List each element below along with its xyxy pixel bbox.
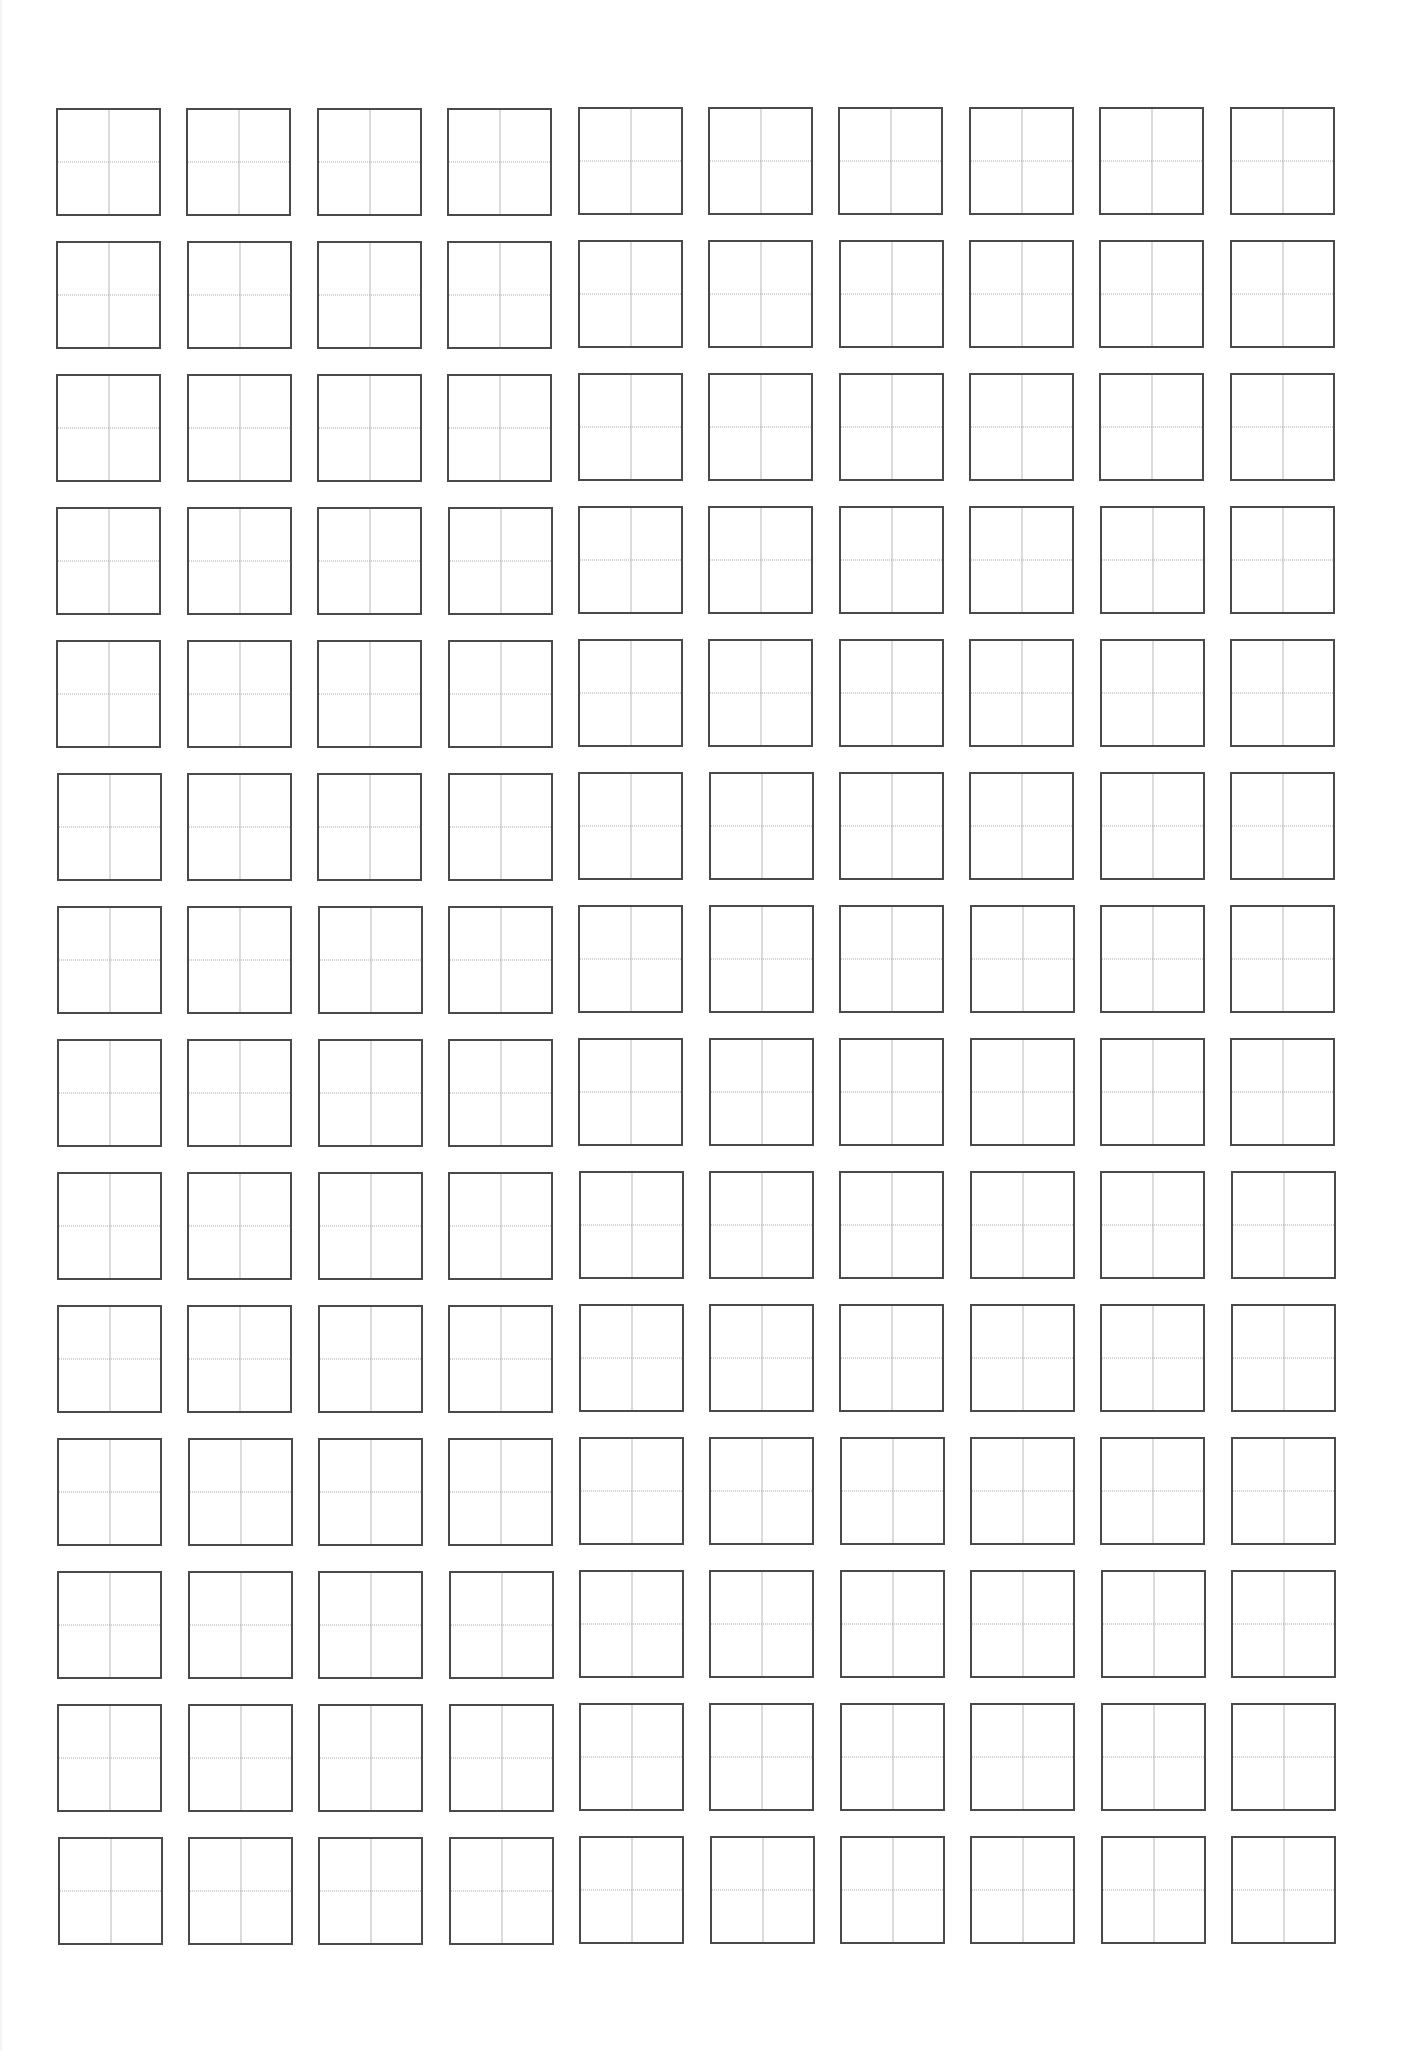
writing-cell xyxy=(318,1305,423,1413)
writing-cell xyxy=(578,107,683,215)
writing-cell xyxy=(317,640,422,748)
writing-cell xyxy=(448,1039,553,1147)
writing-cell xyxy=(839,373,944,481)
horizontal-guide-line xyxy=(971,693,1072,694)
horizontal-guide-line xyxy=(711,1092,812,1093)
writing-cell xyxy=(318,1837,423,1945)
writing-cell xyxy=(57,1305,162,1413)
writing-cell xyxy=(187,241,292,349)
horizontal-guide-line xyxy=(449,162,550,163)
horizontal-guide-line xyxy=(1102,1092,1203,1093)
writing-cell xyxy=(708,506,813,614)
writing-cell xyxy=(578,373,683,481)
horizontal-guide-line xyxy=(189,694,290,695)
writing-cell xyxy=(186,108,291,216)
writing-cell xyxy=(447,108,552,216)
writing-cell xyxy=(969,240,1074,348)
horizontal-guide-line xyxy=(711,1225,812,1226)
horizontal-guide-line xyxy=(580,294,681,295)
writing-cell xyxy=(448,640,553,748)
horizontal-guide-line xyxy=(1232,161,1333,162)
horizontal-guide-line xyxy=(58,295,159,296)
horizontal-guide-line xyxy=(972,1624,1073,1625)
horizontal-guide-line xyxy=(1232,427,1333,428)
writing-cell xyxy=(56,640,161,748)
writing-cell xyxy=(187,640,292,748)
writing-cell xyxy=(578,240,683,348)
horizontal-guide-line xyxy=(450,1226,551,1227)
writing-cell xyxy=(317,773,422,881)
horizontal-guide-line xyxy=(320,1891,421,1892)
writing-cell xyxy=(970,1703,1075,1811)
horizontal-guide-line xyxy=(188,162,289,163)
horizontal-guide-line xyxy=(60,1891,161,1892)
horizontal-guide-line xyxy=(842,1890,943,1891)
horizontal-guide-line xyxy=(580,560,681,561)
writing-cell xyxy=(709,1703,814,1811)
writing-cell xyxy=(1231,1304,1336,1412)
writing-cell xyxy=(56,507,161,615)
horizontal-guide-line xyxy=(1102,826,1203,827)
horizontal-guide-line xyxy=(840,161,941,162)
horizontal-guide-line xyxy=(58,694,159,695)
writing-cell xyxy=(1099,107,1204,215)
writing-cell xyxy=(1100,639,1205,747)
writing-cell xyxy=(579,1836,684,1944)
writing-cell xyxy=(56,108,161,216)
horizontal-guide-line xyxy=(451,1625,552,1626)
horizontal-guide-line xyxy=(581,1890,682,1891)
writing-cell xyxy=(56,374,161,482)
writing-cell xyxy=(1230,506,1335,614)
writing-cell xyxy=(187,507,292,615)
writing-cell xyxy=(708,639,813,747)
writing-cell xyxy=(840,1570,945,1678)
writing-cell xyxy=(57,1571,162,1679)
horizontal-guide-line xyxy=(841,1225,942,1226)
writing-cell xyxy=(969,772,1074,880)
writing-cell xyxy=(709,905,814,1013)
writing-cell xyxy=(1100,1437,1205,1545)
horizontal-guide-line xyxy=(189,960,290,961)
writing-cell xyxy=(57,1438,162,1546)
writing-cell xyxy=(448,1172,553,1280)
horizontal-guide-line xyxy=(320,1492,421,1493)
horizontal-guide-line xyxy=(190,1492,291,1493)
horizontal-guide-line xyxy=(710,693,811,694)
writing-cell xyxy=(318,1571,423,1679)
horizontal-guide-line xyxy=(1232,1092,1333,1093)
writing-cell xyxy=(187,374,292,482)
writing-cell xyxy=(1230,373,1335,481)
horizontal-guide-line xyxy=(319,428,420,429)
writing-cell xyxy=(578,506,683,614)
writing-cell xyxy=(449,1571,554,1679)
horizontal-guide-line xyxy=(320,1226,421,1227)
horizontal-guide-line xyxy=(1102,560,1203,561)
horizontal-guide-line xyxy=(1102,1358,1203,1359)
writing-cell xyxy=(1101,1703,1206,1811)
writing-cell xyxy=(708,373,813,481)
horizontal-guide-line xyxy=(1232,693,1333,694)
horizontal-guide-line xyxy=(59,960,160,961)
horizontal-guide-line xyxy=(580,959,681,960)
horizontal-guide-line xyxy=(841,1092,942,1093)
horizontal-guide-line xyxy=(59,1758,160,1759)
horizontal-guide-line xyxy=(1103,1624,1204,1625)
horizontal-guide-line xyxy=(59,827,160,828)
horizontal-guide-line xyxy=(189,428,290,429)
writing-cell xyxy=(57,773,162,881)
writing-cell xyxy=(1231,1171,1336,1279)
horizontal-guide-line xyxy=(971,826,1072,827)
horizontal-guide-line xyxy=(319,295,420,296)
writing-cell xyxy=(1099,240,1204,348)
writing-cell xyxy=(318,1039,423,1147)
writing-cell xyxy=(840,1703,945,1811)
writing-cell xyxy=(448,773,553,881)
horizontal-guide-line xyxy=(320,1359,421,1360)
horizontal-guide-line xyxy=(1232,560,1333,561)
horizontal-guide-line xyxy=(1102,1491,1203,1492)
horizontal-guide-line xyxy=(1233,1757,1334,1758)
writing-cell xyxy=(970,1304,1075,1412)
horizontal-guide-line xyxy=(842,1757,943,1758)
writing-cell xyxy=(839,506,944,614)
horizontal-guide-line xyxy=(841,427,942,428)
